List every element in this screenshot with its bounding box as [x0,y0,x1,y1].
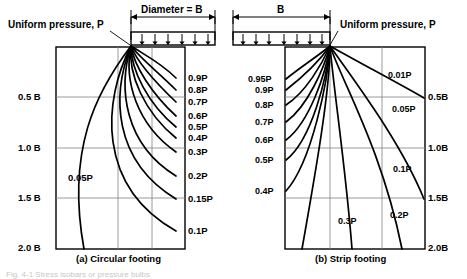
isobar-label-b-0.3P: 0.3P [338,216,357,226]
isobar-label-a-1: 0.9P [188,72,208,83]
panel-circular-footing: Diameter = B Uniform pressure, P [8,4,215,264]
isobar-labels-b-left: 0.95P 0.9P 0.8P 0.7P 0.6P 0.5P 0.4P [248,74,274,196]
panel-b-caption: (b) Strip footing [315,253,386,264]
isobar-label-a-5: 0.5P [188,121,208,132]
dimension-label-diameter: Diameter = B [141,4,202,15]
depth-tick-a-3: 2.0 B [18,242,41,253]
isobar-label-b-5: 0.6P [255,135,274,145]
figure-footer-caption: Fig. 4-1 Stress isobars or pressure bulb… [6,270,150,279]
isobar-label-a-4: 0.6P [188,110,208,121]
uniform-pressure-label-right: Uniform pressure, P [340,19,436,30]
gridlines-a [56,47,185,249]
depth-tick-a-2: 1.5 B [18,192,41,203]
leader-line-right [330,31,338,45]
depth-tick-b-3: 2.0B [428,242,448,253]
load-arrows-strip [240,34,324,45]
isobar-label-a-6: 0.4P [188,132,208,143]
uniform-pressure-label-left: Uniform pressure, P [8,19,104,30]
isobar-label-a-2: 0.8P [188,84,208,95]
depth-tick-a-1: 1.0 B [18,142,41,153]
isobar-a-0.05P [79,46,131,249]
panel-a-caption: (a) Circular footing [76,253,161,264]
isobar-label-a-9: 0.15P [188,193,213,204]
depth-tick-a-0: 0.5 B [18,91,41,102]
isobar-label-b-0.1P: 0.1P [393,164,412,174]
isobar-a-0.1P [112,46,176,231]
isobar-label-b-0.2P: 0.2P [390,210,409,220]
footing-bar-strip [233,32,330,45]
panel-strip-footing: B Uniform pressure, P [233,4,448,264]
isobar-a-0.9P [131,46,176,78]
isobar-label-b-6: 0.5P [255,155,274,165]
load-arrows-circular [139,34,210,45]
footing-bar-circular [131,32,215,45]
depth-axis-a: 0.5 B 1.0 B 1.5 B 2.0 B [18,91,41,253]
isobar-label-a-10: 0.1P [188,225,208,236]
isobar-label-a-8: 0.2P [188,170,208,181]
isobar-label-b-3: 0.8P [255,100,274,110]
dimension-label-b: B [277,4,284,15]
isobar-label-b-0.01P: 0.01P [388,70,412,80]
isobar-label-a-inner: 0.05P [68,172,93,183]
depth-axis-b: 0.5B 1.0B 1.5B 2.0B [428,91,448,253]
isobar-label-a-7: 0.3P [188,146,208,157]
pressure-bulb-figure: Diameter = B Uniform pressure, P [0,0,467,279]
isobar-label-b-1: 0.95P [248,74,272,84]
isobar-label-b-4: 0.7P [255,117,274,127]
isobar-label-b-0.05P: 0.05P [392,104,416,114]
leader-line-left [110,31,130,45]
isobar-label-b-7: 0.4P [255,186,274,196]
depth-tick-b-0: 0.5B [428,91,448,102]
depth-tick-b-1: 1.0B [428,142,448,153]
isobar-contours-a [79,46,176,249]
depth-tick-b-2: 1.5B [428,192,448,203]
figure-svg: Diameter = B Uniform pressure, P [0,0,467,279]
isobar-label-a-3: 0.7P [188,96,208,107]
isobar-label-b-2: 0.9P [255,85,274,95]
